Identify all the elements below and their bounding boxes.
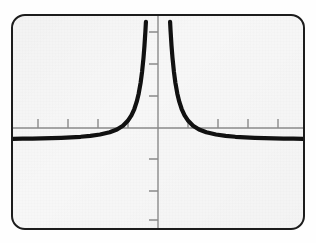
y-axis-ticks	[149, 32, 158, 220]
figure-border-frame	[11, 14, 305, 230]
graph-plot-area	[13, 16, 303, 228]
curve-left-branch	[13, 22, 146, 139]
figure-root	[0, 0, 316, 243]
curve-right-branch	[170, 22, 303, 139]
